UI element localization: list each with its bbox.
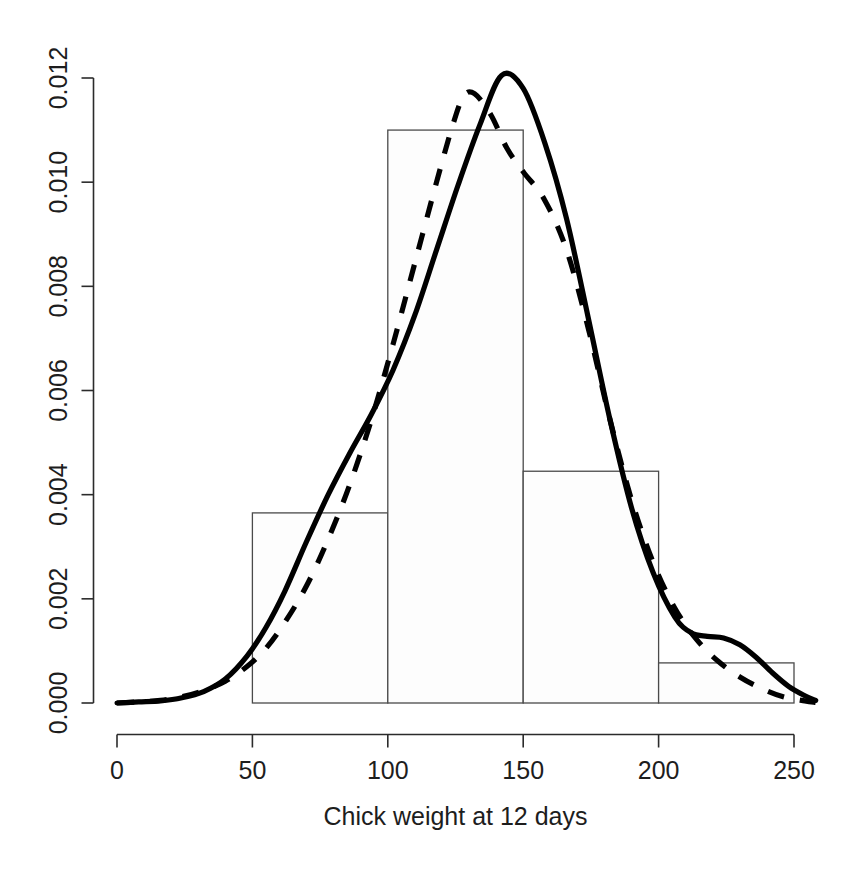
histogram-bar <box>659 663 794 703</box>
histogram-density-plot: 0.0000.0020.0040.0060.0080.0100.012 0501… <box>0 0 861 878</box>
x-axis: 050100150200250 <box>110 735 815 784</box>
histogram-bar <box>523 471 658 703</box>
y-axis-tick-label: 0.000 <box>44 672 72 735</box>
y-axis-tick-label: 0.008 <box>44 255 72 318</box>
y-axis: 0.0000.0020.0040.0060.0080.0100.012 <box>44 47 94 735</box>
x-axis-tick-label: 0 <box>110 756 124 784</box>
x-axis-tick-label: 150 <box>502 756 544 784</box>
x-axis-tick-label: 100 <box>367 756 409 784</box>
y-axis-tick-label: 0.012 <box>44 47 72 110</box>
x-axis-title: Chick weight at 12 days <box>323 802 587 830</box>
histogram-bar <box>388 130 523 703</box>
y-axis-tick-label: 0.002 <box>44 568 72 631</box>
y-axis-tick-label: 0.004 <box>44 463 72 526</box>
figure-canvas: 0.0000.0020.0040.0060.0080.0100.012 0501… <box>0 0 861 878</box>
x-axis-tick-label: 200 <box>638 756 680 784</box>
histogram-bars <box>252 130 794 703</box>
x-axis-tick-label: 250 <box>773 756 815 784</box>
histogram-bar <box>252 513 387 703</box>
y-axis-tick-label: 0.010 <box>44 151 72 214</box>
y-axis-tick-label: 0.006 <box>44 359 72 422</box>
x-axis-tick-label: 50 <box>238 756 266 784</box>
